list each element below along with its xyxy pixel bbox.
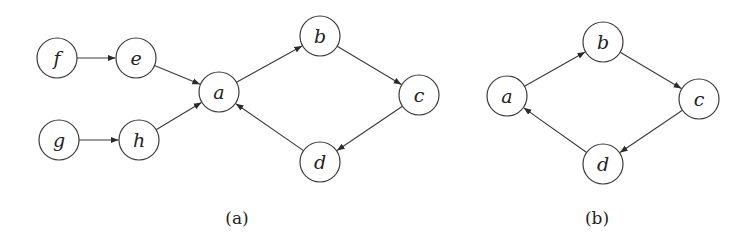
node-label: h [133, 129, 145, 151]
captions-layer: (a)(b) [225, 208, 609, 228]
node-a-h: h [119, 120, 159, 160]
panel-caption-b: (b) [585, 208, 609, 228]
nodes-layer: feaghbcdabcd [37, 16, 719, 184]
edge-a-c-to-d [337, 106, 402, 150]
node-b-b: b [583, 22, 623, 62]
graph-figure: feaghbcdabcd (a)(b) [0, 0, 756, 247]
edge-b-a-to-b [524, 52, 585, 86]
edges-layer [77, 46, 682, 153]
node-label: d [597, 153, 609, 175]
node-label: c [414, 84, 425, 106]
node-label: b [314, 25, 326, 47]
node-label: c [694, 88, 705, 110]
edge-a-d-to-a [236, 104, 304, 151]
edge-a-e-to-a [155, 66, 201, 85]
node-b-d: d [583, 144, 623, 184]
edge-b-b-to-c [620, 52, 681, 88]
edge-a-a-to-b [236, 46, 302, 82]
node-label: b [597, 31, 609, 53]
node-a-g: g [39, 120, 79, 160]
edge-b-d-to-a [524, 108, 587, 153]
node-a-c: c [399, 75, 439, 115]
node-label: a [501, 85, 512, 107]
node-label: e [130, 47, 141, 69]
node-a-f: f [37, 38, 77, 78]
panel-caption-a: (a) [225, 208, 248, 228]
node-a-d: d [300, 142, 340, 182]
edge-a-h-to-a [156, 103, 201, 130]
node-a-b: b [300, 16, 340, 56]
node-b-a: a [487, 76, 527, 116]
node-b-c: c [679, 79, 719, 119]
node-label: g [53, 129, 65, 151]
node-a-a: a [199, 72, 239, 112]
edge-b-c-to-d [620, 110, 682, 152]
edge-a-b-to-c [337, 46, 401, 84]
node-label: d [314, 151, 326, 173]
node-a-e: e [116, 38, 156, 78]
node-label: a [213, 81, 224, 103]
